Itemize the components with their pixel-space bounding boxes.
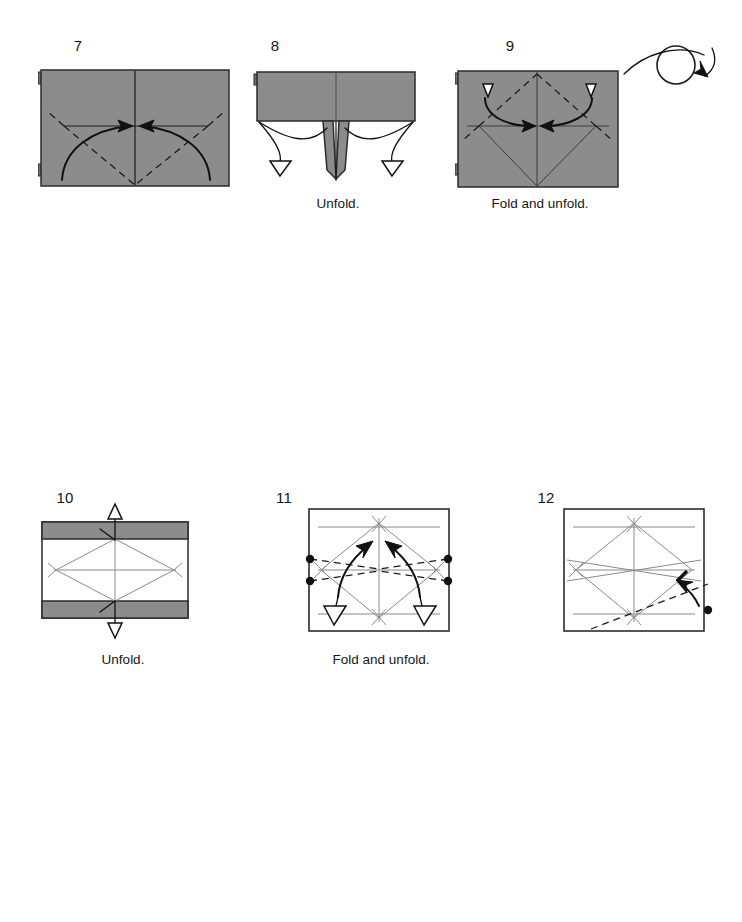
step-number-8: 8 — [255, 38, 295, 53]
step-caption-9: Fold and unfold. — [440, 196, 640, 212]
step-cell-10: 10 U — [0, 240, 260, 450]
step-cell-14: 14 — [260, 455, 510, 680]
origami-instruction-page: 7 8 — [0, 0, 742, 922]
step-caption-8: Unfold. — [248, 196, 428, 212]
step-figure-8 — [248, 68, 428, 190]
step-cell-7: 7 — [0, 0, 240, 230]
step-cell-18: 18 — [510, 690, 742, 922]
step-cell-11: 11 — [260, 240, 510, 450]
step-number-7: 7 — [58, 38, 98, 53]
step-cell-13: 13 — [0, 455, 260, 680]
step-number-9: 9 — [490, 38, 530, 53]
step-cell-8: 8 Unfold. — [240, 0, 440, 230]
turn-over-symbol — [620, 27, 732, 99]
step-cell-15: 15 Unfold. — [510, 455, 742, 680]
step-cell-17: 17 — [260, 690, 510, 922]
step-figure-9 — [455, 68, 627, 190]
step-cell-16: 16 — [0, 690, 260, 922]
step-cell-9: 9 — [440, 0, 742, 230]
step-cell-12: 12 — [510, 240, 742, 450]
step-figure-7 — [38, 68, 234, 190]
